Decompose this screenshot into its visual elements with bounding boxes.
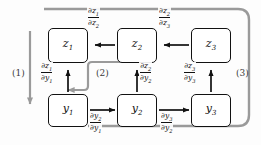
node-z3-label: z3: [206, 38, 216, 52]
backprop-path-1-label: (1): [12, 68, 25, 78]
node-z2[interactable]: z2: [117, 28, 157, 63]
edge-label-y1-to-z1: ∂z1 ∂y1: [40, 62, 53, 83]
edge-label-y1-to-y2: ∂y2 ∂y1: [89, 112, 102, 133]
edge-label-y2-to-z2: ∂z2 ∂y2: [139, 62, 152, 83]
node-z1-label: z1: [63, 38, 73, 52]
edge-label-y2-to-y3: ∂y3 ∂y2: [160, 112, 173, 133]
node-y2-label: y2: [132, 103, 143, 117]
backprop-path-2-label: (2): [96, 68, 109, 78]
edge-label-z3-to-z2: ∂z2 ∂z3: [158, 7, 171, 28]
backprop-path-3-label: (3): [236, 68, 249, 78]
diagram-canvas: z1 z2 z3 y1 y2 y3 ∂z1 ∂z2 ∂z2 ∂z3 ∂z1: [0, 0, 261, 145]
node-y2[interactable]: y2: [117, 94, 157, 127]
node-z1[interactable]: z1: [48, 28, 88, 63]
node-y1-label: y1: [63, 103, 74, 117]
edge-label-y3-to-z3: ∂z3 ∂y3: [183, 62, 196, 83]
node-z2-label: z2: [132, 38, 142, 52]
node-y1[interactable]: y1: [48, 94, 88, 127]
node-y3[interactable]: y3: [191, 94, 231, 127]
edge-label-z2-to-z1: ∂z1 ∂z2: [87, 7, 100, 28]
node-z3[interactable]: z3: [191, 28, 231, 63]
node-y3-label: y3: [206, 103, 217, 117]
